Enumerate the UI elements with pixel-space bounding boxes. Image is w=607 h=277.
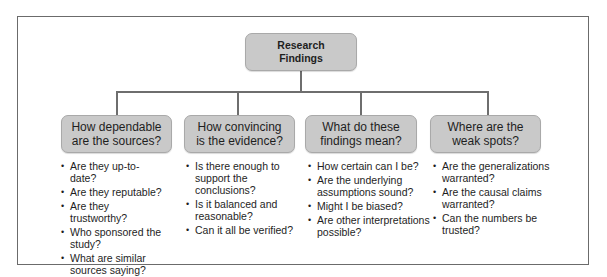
branch-4-connector xyxy=(487,91,489,115)
branch-node-label: Where are the weak spots? xyxy=(447,120,523,148)
meaning-question-list: How certain can I be? Are the underlying… xyxy=(308,160,432,240)
list-item: Are the causal claims warranted? xyxy=(433,186,563,210)
branch-node-label: How dependable are the sources? xyxy=(71,120,161,148)
list-item: Are they reputable? xyxy=(61,186,165,198)
sources-question-list: Are they up-to-date? Are they reputable?… xyxy=(61,160,165,277)
horizontal-connector xyxy=(116,91,489,93)
list-item: Are they trustworthy? xyxy=(61,200,165,224)
branch-node-label: What do these findings mean? xyxy=(320,120,401,148)
list-item: Are the underlying assumptions sound? xyxy=(308,174,432,198)
root-node-research-findings: Research Findings xyxy=(245,33,357,71)
list-item: Can the numbers be trusted? xyxy=(433,212,563,236)
list-item: Can it all be verified? xyxy=(186,224,308,236)
branch-node-weak-spots: Where are the weak spots? xyxy=(430,115,541,153)
weak-spots-question-list: Are the generalizations warranted? Are t… xyxy=(433,160,563,238)
root-connector xyxy=(300,71,302,93)
branch-node-evidence: How convincing is the evidence? xyxy=(184,115,295,153)
branch-node-label: How convincing is the evidence? xyxy=(196,120,283,148)
branch-3-connector xyxy=(360,91,362,115)
branch-2-connector xyxy=(237,91,239,115)
branch-node-meaning: What do these findings mean? xyxy=(305,115,417,153)
list-item: What are similar sources saying? xyxy=(61,252,165,276)
list-item: Who sponsored the study? xyxy=(61,226,165,250)
list-item: Are they up-to-date? xyxy=(61,160,165,184)
branch-node-sources: How dependable are the sources? xyxy=(61,115,172,153)
list-item: How certain can I be? xyxy=(308,160,432,172)
root-node-label: Research Findings xyxy=(277,39,324,65)
list-item: Might I be biased? xyxy=(308,200,432,212)
list-item: Is there enough to support the conclusio… xyxy=(186,160,308,196)
list-item: Are the generalizations warranted? xyxy=(433,160,563,184)
list-item: Are other interpretations possible? xyxy=(308,214,432,238)
branch-1-connector xyxy=(116,91,118,115)
evidence-question-list: Is there enough to support the conclusio… xyxy=(186,160,308,238)
list-item: Is it balanced and reasonable? xyxy=(186,198,308,222)
